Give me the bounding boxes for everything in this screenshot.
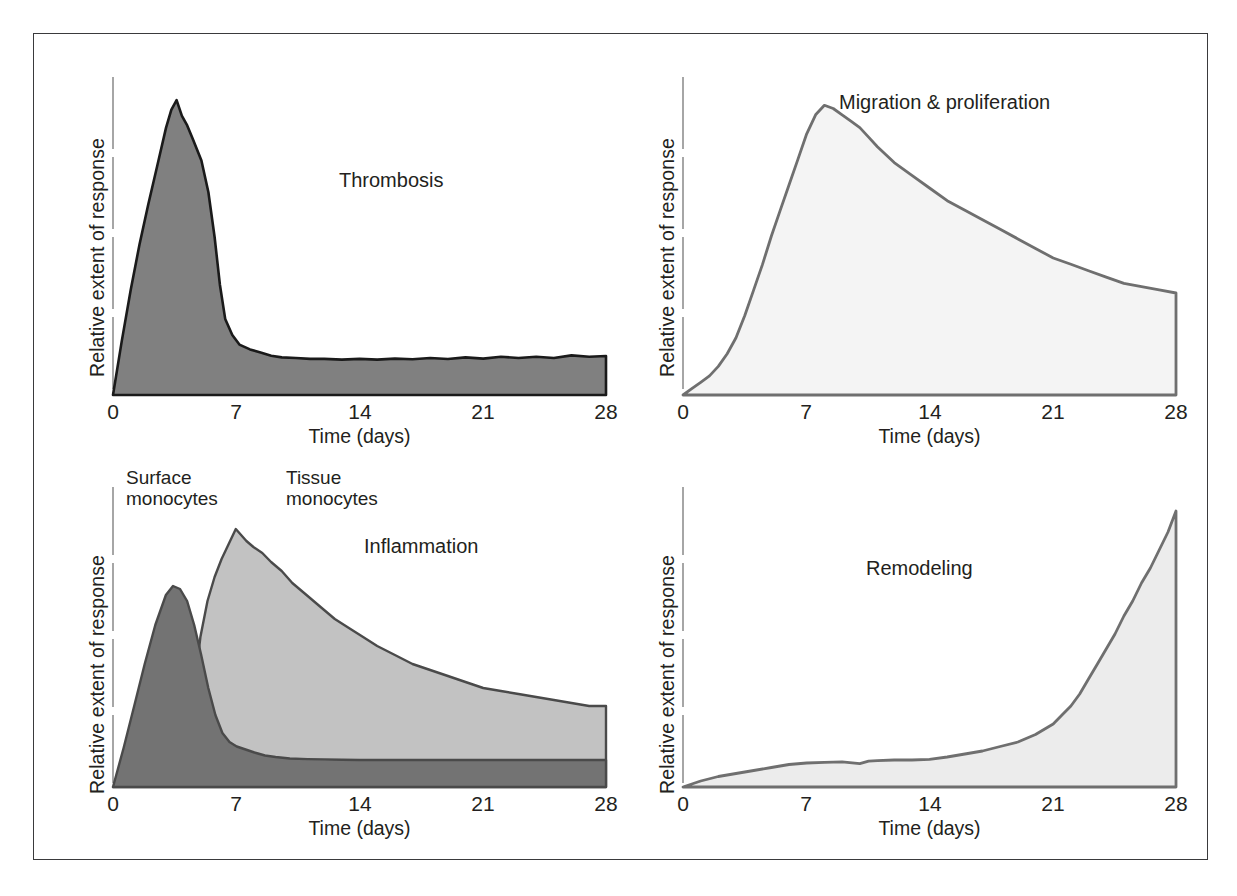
inflammation-svg xyxy=(112,487,607,787)
thrombosis-svg xyxy=(112,77,607,395)
surface-monocytes-line1: Surface xyxy=(126,467,218,488)
x-tick-28: 28 xyxy=(1164,791,1187,817)
x-tick-7: 7 xyxy=(230,399,242,425)
x-tick-0: 0 xyxy=(107,399,119,425)
x-tick-14: 14 xyxy=(348,399,371,425)
x-tick-21: 21 xyxy=(471,399,494,425)
x-tick-0: 0 xyxy=(677,791,689,817)
migration-svg xyxy=(682,77,1177,395)
y-axis-label: Relative extent of response xyxy=(86,555,109,794)
x-tick-7: 7 xyxy=(800,399,812,425)
panel-remodeling: Relative extent of response Remodeling 0… xyxy=(634,449,1194,849)
x-tick-0: 0 xyxy=(107,791,119,817)
x-tick-14: 14 xyxy=(918,399,941,425)
panel-migration: Relative extent of response Migration & … xyxy=(634,59,1194,449)
x-tick-0: 0 xyxy=(677,399,689,425)
thrombosis-plot-area xyxy=(112,77,607,395)
y-axis-label: Relative extent of response xyxy=(656,555,679,794)
x-tick-labels: 0 7 14 21 28 xyxy=(682,399,1177,425)
panel-thrombosis: Relative extent of response Thrombosis 0… xyxy=(64,59,624,449)
x-tick-21: 21 xyxy=(471,791,494,817)
x-tick-28: 28 xyxy=(1164,399,1187,425)
x-tick-21: 21 xyxy=(1041,399,1064,425)
y-axis-label: Relative extent of response xyxy=(656,138,679,377)
x-tick-28: 28 xyxy=(594,399,617,425)
x-tick-labels: 0 7 14 21 28 xyxy=(112,791,607,817)
panel-inflammation: Relative extent of response Surface mono… xyxy=(64,449,624,849)
x-tick-21: 21 xyxy=(1041,791,1064,817)
inflammation-plot-area xyxy=(112,487,607,787)
x-tick-14: 14 xyxy=(918,791,941,817)
x-tick-14: 14 xyxy=(348,791,371,817)
remodeling-svg xyxy=(682,487,1177,787)
x-tick-7: 7 xyxy=(230,791,242,817)
tissue-monocytes-line1: Tissue xyxy=(286,467,378,488)
remodeling-plot-area xyxy=(682,487,1177,787)
x-axis-label: Time (days) xyxy=(682,817,1177,840)
x-axis-label: Time (days) xyxy=(112,817,607,840)
x-tick-7: 7 xyxy=(800,791,812,817)
figure-root: Relative extent of response Thrombosis 0… xyxy=(0,0,1237,896)
x-tick-labels: 0 7 14 21 28 xyxy=(682,791,1177,817)
y-axis-label: Relative extent of response xyxy=(86,138,109,377)
remodeling-area xyxy=(683,511,1176,787)
panel-title-inflammation: Inflammation xyxy=(364,535,479,558)
thrombosis-area xyxy=(113,100,606,395)
panel-title-thrombosis: Thrombosis xyxy=(339,169,443,192)
figure-border-frame: Relative extent of response Thrombosis 0… xyxy=(33,33,1208,860)
x-tick-28: 28 xyxy=(594,791,617,817)
migration-plot-area xyxy=(682,77,1177,395)
panel-title-migration: Migration & proliferation xyxy=(839,91,1050,114)
x-axis-label: Time (days) xyxy=(682,425,1177,448)
x-axis-label: Time (days) xyxy=(112,425,607,448)
x-tick-labels: 0 7 14 21 28 xyxy=(112,399,607,425)
panel-title-remodeling: Remodeling xyxy=(866,557,973,580)
migration-area xyxy=(683,105,1176,395)
